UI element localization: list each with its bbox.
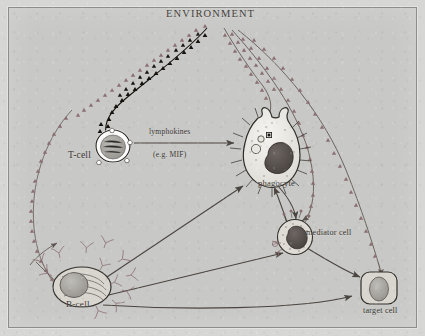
arrow-bcell-phagocyte [95, 186, 243, 285]
antigen-particles-light-left [76, 24, 207, 117]
t-cell [95, 128, 132, 165]
label-target-cell: target cell [363, 306, 398, 315]
antigen-particles-dark [98, 32, 208, 140]
label-b-cell: B-cell [66, 299, 90, 309]
label-t-cell: T-cell [68, 150, 91, 160]
diagram-canvas [0, 0, 425, 336]
page-title: ENVIRONMENT [166, 8, 255, 19]
arrow-bcell-target [103, 296, 352, 308]
label-mediator-cell: mediator cell [306, 228, 352, 237]
label-phagocyte: phagocyte [258, 178, 295, 188]
immune-system-diagram: ENVIRONMENT T-cell lymphokines (e.g. MIF… [0, 0, 425, 336]
signal-arrows [88, 143, 360, 308]
label-lymphokines: lymphokines [149, 127, 190, 136]
label-mif: (e.g. MIF) [153, 150, 186, 159]
antigen-particles-left-sweep [29, 116, 68, 289]
target-cell [361, 272, 397, 304]
antigen-particles-right-inner [223, 32, 276, 100]
arrow-mediator-target [307, 248, 360, 277]
